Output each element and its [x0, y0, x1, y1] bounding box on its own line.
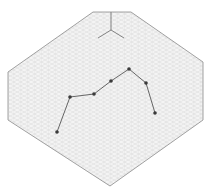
vertex-point: [55, 130, 59, 134]
diagram-canvas: [0, 0, 209, 188]
vertex-point: [68, 95, 72, 99]
vertex-point: [127, 67, 131, 71]
vertex-point: [153, 111, 157, 115]
vertex-point: [92, 92, 96, 96]
isometric-diagram: [0, 0, 209, 188]
vertex-point: [109, 79, 113, 83]
vertex-point: [144, 81, 148, 85]
